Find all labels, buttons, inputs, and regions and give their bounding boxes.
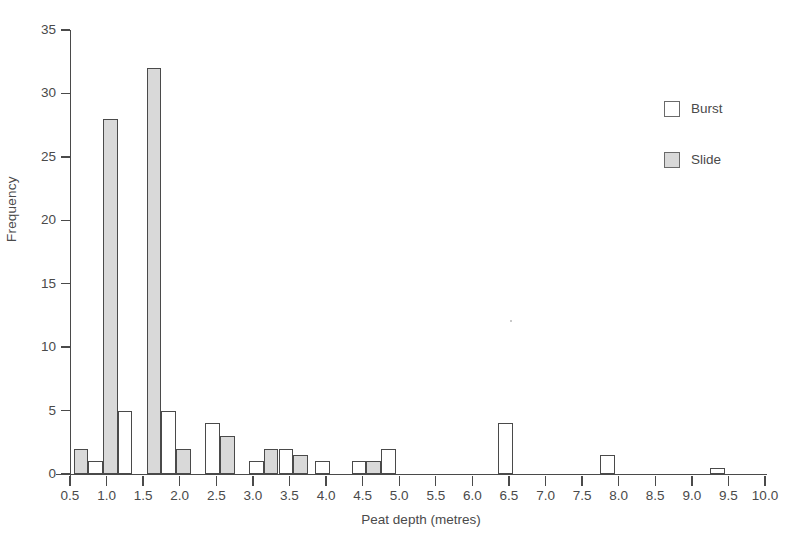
scan-artifact xyxy=(510,320,512,322)
x-axis-tick-label: 1.5 xyxy=(123,489,163,503)
x-axis-tick xyxy=(106,476,107,486)
x-axis-tick xyxy=(399,476,400,486)
x-axis-tick-label: 8.5 xyxy=(635,489,675,503)
histogram-chart: 05101520253035 0.51.01.52.02.53.03.54.04… xyxy=(0,0,806,557)
legend-swatch-slide-icon xyxy=(664,152,680,168)
x-axis-tick xyxy=(545,476,546,486)
x-axis-line xyxy=(56,474,767,475)
x-axis-tick-label: 6.0 xyxy=(452,489,492,503)
x-axis-tick xyxy=(216,476,217,486)
bar-burst xyxy=(88,461,103,474)
x-axis-title: Peat depth (metres) xyxy=(0,512,806,527)
y-axis-tick-label: 0 xyxy=(26,467,56,481)
y-axis-tick xyxy=(61,220,70,221)
x-axis-tick-label: 6.5 xyxy=(489,489,529,503)
x-axis-tick xyxy=(435,476,436,486)
bar-burst xyxy=(710,468,725,474)
bar-slide xyxy=(366,461,381,474)
x-axis-tick xyxy=(142,476,143,486)
x-axis-tick-label: 1.0 xyxy=(87,489,127,503)
x-axis-tick xyxy=(252,476,253,486)
x-axis-tick xyxy=(655,476,656,486)
x-axis-tick-label: 2.5 xyxy=(196,489,236,503)
x-axis-tick-label: 8.0 xyxy=(599,489,639,503)
bar-burst xyxy=(600,455,615,474)
legend-swatch-burst-icon xyxy=(664,101,680,117)
bar-slide xyxy=(293,455,308,474)
x-axis-tick xyxy=(618,476,619,486)
x-axis-tick-label: 5.5 xyxy=(416,489,456,503)
bar-slide xyxy=(74,449,89,474)
legend: Burst Slide xyxy=(664,100,723,202)
x-axis-tick xyxy=(764,476,765,486)
bar-burst xyxy=(498,423,513,474)
x-axis-tick-label: 7.0 xyxy=(526,489,566,503)
y-axis-tick-label: 35 xyxy=(26,23,56,37)
x-axis-tick xyxy=(362,476,363,486)
x-axis-tick-label: 3.5 xyxy=(269,489,309,503)
legend-item-slide: Slide xyxy=(664,151,723,169)
bar-burst xyxy=(381,449,396,474)
x-axis-tick xyxy=(508,476,509,486)
y-axis-tick xyxy=(61,156,70,157)
plot-area xyxy=(70,30,765,474)
y-axis-tick-label: 25 xyxy=(26,150,56,164)
bar-slide xyxy=(103,119,118,474)
x-axis-tick-label: 9.5 xyxy=(708,489,748,503)
bar-burst xyxy=(315,461,330,474)
bar-slide xyxy=(147,68,162,474)
x-axis-tick xyxy=(69,476,70,486)
y-axis-title-label: Frequency xyxy=(4,176,19,242)
x-axis-tick xyxy=(581,476,582,486)
y-axis-tick-label: 20 xyxy=(26,213,56,227)
bar-slide xyxy=(176,449,191,474)
x-axis-tick xyxy=(179,476,180,486)
legend-label-slide: Slide xyxy=(691,153,721,167)
x-axis-tick-label: 0.5 xyxy=(50,489,90,503)
x-axis-tick xyxy=(728,476,729,486)
bar-burst xyxy=(352,461,367,474)
y-axis-tick-label: 15 xyxy=(26,277,56,291)
x-axis-tick xyxy=(691,476,692,486)
x-axis-tick-label: 9.0 xyxy=(672,489,712,503)
x-axis-tick-label: 10.0 xyxy=(745,489,785,503)
x-axis-tick-label: 3.0 xyxy=(233,489,273,503)
x-axis-tick-label: 7.5 xyxy=(562,489,602,503)
y-axis-tick-label: 30 xyxy=(26,86,56,100)
x-axis-tick xyxy=(472,476,473,486)
bar-burst xyxy=(118,411,133,474)
bar-slide xyxy=(264,449,279,474)
x-axis-tick-label: 2.0 xyxy=(160,489,200,503)
x-axis-tick xyxy=(325,476,326,486)
y-axis-tick xyxy=(61,93,70,94)
legend-label-burst: Burst xyxy=(691,102,723,116)
y-axis-tick-label: 5 xyxy=(26,404,56,418)
legend-item-burst: Burst xyxy=(664,100,723,118)
x-axis-tick-label: 5.0 xyxy=(379,489,419,503)
x-axis-tick xyxy=(289,476,290,486)
y-axis-tick xyxy=(61,473,70,474)
y-axis-tick-label: 10 xyxy=(26,340,56,354)
y-axis-tick xyxy=(61,346,70,347)
x-axis-tick-label: 4.0 xyxy=(306,489,346,503)
bar-burst xyxy=(279,449,294,474)
bar-burst xyxy=(161,411,176,474)
bar-burst xyxy=(205,423,220,474)
y-axis-tick xyxy=(61,283,70,284)
x-axis-tick-label: 4.5 xyxy=(343,489,383,503)
bar-burst xyxy=(249,461,264,474)
y-axis-tick xyxy=(61,410,70,411)
y-axis-tick xyxy=(61,29,70,30)
bar-slide xyxy=(220,436,235,474)
